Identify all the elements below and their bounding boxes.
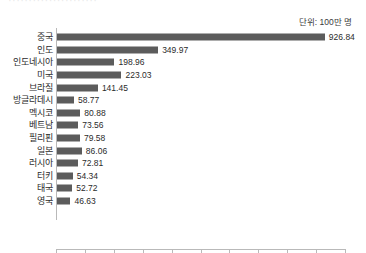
x-axis-tick xyxy=(143,249,144,253)
bar-value-label: 86.06 xyxy=(86,146,107,155)
x-axis-tick xyxy=(56,249,57,253)
category-label: 터키 xyxy=(37,171,53,180)
category-label: 태국 xyxy=(37,184,53,193)
x-axis-tick xyxy=(345,249,346,253)
bar-row: 필리핀79.58 xyxy=(0,132,366,145)
bar-value-label: 926.84 xyxy=(329,33,355,42)
category-label: 일본 xyxy=(37,146,53,155)
bar-value-label: 73.56 xyxy=(82,121,103,130)
unit-annotation: 단위: 100만 명 xyxy=(299,15,352,27)
x-axis-tick xyxy=(172,249,173,253)
x-axis-tick xyxy=(229,249,230,253)
bar xyxy=(57,97,74,104)
bar-row: 베트남73.56 xyxy=(0,119,366,132)
bar xyxy=(57,34,325,41)
bar-chart-plot-area: 중국926.84인도349.97인도네시아198.96미국223.03브라질14… xyxy=(0,28,366,222)
category-label: 영국 xyxy=(37,197,53,206)
bar-row: 영국46.63 xyxy=(0,195,366,208)
bar-row: 인도네시아198.96 xyxy=(0,56,366,69)
bar-value-label: 141.45 xyxy=(102,83,128,92)
bar xyxy=(57,198,70,205)
bar xyxy=(57,109,80,116)
bar-row: 미국223.03 xyxy=(0,69,366,82)
bar xyxy=(57,147,82,154)
bar-value-label: 58.77 xyxy=(78,96,99,105)
category-label: 미국 xyxy=(37,71,53,80)
bar-value-label: 54.34 xyxy=(77,172,98,181)
bar xyxy=(57,160,78,167)
bar-row: 태국52.72 xyxy=(0,182,366,195)
bar-row: 러시아72.81 xyxy=(0,157,366,170)
bar-row: 인도349.97 xyxy=(0,44,366,57)
bar-row: 터키54.34 xyxy=(0,170,366,183)
clipped-page-title: ······················ xyxy=(0,0,366,8)
x-axis-tick xyxy=(85,249,86,253)
bar xyxy=(57,122,78,129)
x-axis-tick xyxy=(114,249,115,253)
category-label: 중국 xyxy=(37,33,53,42)
bar xyxy=(57,135,80,142)
category-label: 러시아 xyxy=(29,159,53,168)
bar-row: 방글라데시58.77 xyxy=(0,94,366,107)
bar xyxy=(57,84,98,91)
bar xyxy=(57,172,73,179)
bar-value-label: 80.88 xyxy=(84,109,105,118)
category-label: 방글라데시 xyxy=(13,96,53,105)
bar-row: 중국926.84 xyxy=(0,31,366,44)
bar-value-label: 52.72 xyxy=(76,184,97,193)
bar-value-label: 79.58 xyxy=(84,134,105,143)
category-label: 인도네시아 xyxy=(13,58,53,67)
category-label: 필리핀 xyxy=(29,134,53,143)
x-axis-tick xyxy=(287,249,288,253)
bar xyxy=(57,46,158,53)
bar-row: 브라질141.45 xyxy=(0,81,366,94)
bar-value-label: 72.81 xyxy=(82,159,103,168)
x-axis-tick xyxy=(201,249,202,253)
bar-value-label: 198.96 xyxy=(118,58,144,67)
bar-value-label: 223.03 xyxy=(125,71,151,80)
bar xyxy=(57,59,114,66)
x-axis-tick xyxy=(316,249,317,253)
category-label: 브라질 xyxy=(29,83,53,92)
bar-row: 일본86.06 xyxy=(0,144,366,157)
bar-value-label: 349.97 xyxy=(162,46,188,55)
category-label: 베트남 xyxy=(29,121,53,130)
bar-row: 멕시코80.88 xyxy=(0,107,366,120)
bar-value-label: 46.63 xyxy=(74,197,95,206)
bar xyxy=(57,185,72,192)
category-label: 멕시코 xyxy=(29,108,53,117)
bar xyxy=(57,72,121,79)
category-label: 인도 xyxy=(37,45,53,54)
x-axis-tick xyxy=(258,249,259,253)
